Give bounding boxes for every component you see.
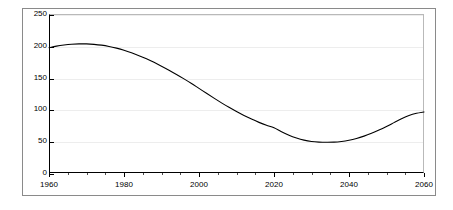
line-chart-figure: 250200150100500 196019802000202020402060 [0,0,453,210]
gridline-y-200 [50,47,423,48]
x-tick-minor-2025 [293,173,294,175]
gridline-y-250 [50,15,423,16]
y-tick-label-100: 100 [23,105,47,113]
x-tick-minor-2050 [387,173,388,175]
y-axis-tick-labels: 250200150100500 [22,0,47,210]
x-tick-minor-2045 [368,173,369,175]
x-tick-minor-1985 [143,173,144,175]
x-tick-label-2020: 2020 [254,180,294,189]
gridline-y-50 [50,142,423,143]
gridline-y-100 [50,110,423,111]
x-tick-major-2040 [349,173,350,177]
x-axis-tick-labels: 196019802000202020402060 [0,180,453,192]
x-tick-major-1960 [49,173,50,177]
y-tick-250 [50,15,54,16]
y-tick-100 [50,110,54,111]
y-tick-50 [50,142,54,143]
x-tick-minor-2035 [330,173,331,175]
x-tick-minor-2015 [255,173,256,175]
x-tick-major-1980 [124,173,125,177]
x-tick-major-2020 [274,173,275,177]
gridline-y-150 [50,79,423,80]
y-tick-label-50: 50 [23,137,47,145]
x-tick-minor-2030 [312,173,313,175]
x-tick-minor-1990 [162,173,163,175]
x-tick-major-2060 [424,173,425,177]
x-tick-minor-1970 [87,173,88,175]
plot-area [49,14,424,173]
y-tick-label-200: 200 [23,42,47,50]
x-tick-minor-1975 [105,173,106,175]
x-tick-minor-1995 [180,173,181,175]
x-tick-major-2000 [199,173,200,177]
y-tick-label-0: 0 [23,169,47,177]
x-tick-minor-1965 [68,173,69,175]
y-tick-150 [50,79,54,80]
x-tick-label-1960: 1960 [29,180,69,189]
x-tick-label-2000: 2000 [179,180,219,189]
x-axis-ticks [49,173,425,179]
x-tick-minor-2055 [405,173,406,175]
x-tick-label-1980: 1980 [104,180,144,189]
y-tick-200 [50,47,54,48]
x-tick-label-2060: 2060 [404,180,444,189]
x-tick-minor-2005 [218,173,219,175]
y-tick-label-250: 250 [23,10,47,18]
y-tick-label-150: 150 [23,74,47,82]
x-tick-minor-2010 [237,173,238,175]
x-tick-label-2040: 2040 [329,180,369,189]
